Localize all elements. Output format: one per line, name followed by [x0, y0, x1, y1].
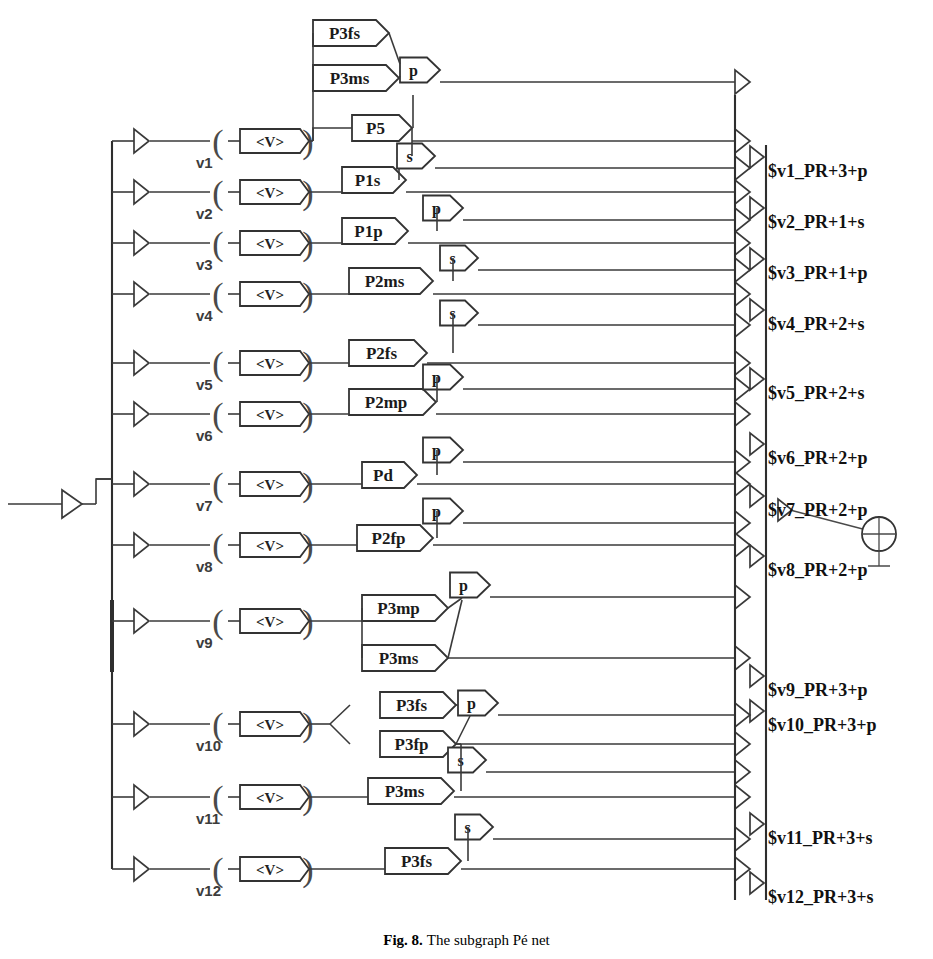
- bus-arrow-icon: [735, 585, 750, 609]
- output-arrow-icon: [750, 700, 764, 722]
- bus-arrow-icon: [735, 511, 750, 535]
- value-box-label: <V>: [256, 134, 284, 150]
- place-box-p3mp-label: P3mp: [377, 599, 420, 618]
- branch-label-v5: v5: [196, 376, 213, 393]
- value-box-label: <V>: [256, 236, 284, 252]
- output-label-o1: $v1_PR+3+p: [768, 161, 868, 181]
- output-label-o3: $v3_PR+1+p: [768, 263, 868, 283]
- branch-arrow-icon: [134, 533, 149, 557]
- transition-box-t1-label: p: [409, 62, 418, 80]
- petri-net-diagram: ()()()()()()()()()()()() <V><V><V><V><V>…: [0, 0, 933, 959]
- transition-box-t4-shape: [440, 246, 478, 271]
- bus-arrow-icon: [735, 70, 750, 94]
- open-paren: (: [212, 174, 223, 212]
- bus-arrow-icon: [735, 231, 750, 255]
- figure-canvas: ()()()()()()()()()()()() <V><V><V><V><V>…: [0, 0, 933, 959]
- connector-wire: [330, 705, 350, 724]
- output-arrow-icon: [750, 813, 764, 835]
- open-paren: (: [212, 276, 223, 314]
- value-box-label: <V>: [256, 477, 284, 493]
- open-paren: (: [212, 527, 223, 565]
- place-box-p3ms_a-label: P3ms: [330, 69, 370, 88]
- value-box-label: <V>: [256, 287, 284, 303]
- output-label-o5: $v5_PR+2+s: [768, 383, 865, 403]
- value-box-label: <V>: [256, 790, 284, 806]
- branch-label-v1: v1: [196, 154, 213, 171]
- place-box-p3ms_c-label: P3ms: [385, 782, 425, 801]
- bus-arrow-icon: [735, 313, 750, 337]
- open-paren: (: [212, 225, 223, 263]
- bus-arrow-icon: [735, 402, 750, 426]
- bus-arrow-icon: [735, 646, 750, 670]
- branch-arrow-icon: [134, 472, 149, 496]
- output-label-o2: $v2_PR+1+s: [768, 212, 865, 232]
- output-label-o6: $v6_PR+2+p: [768, 448, 868, 468]
- transition-box-t8-shape: [423, 499, 463, 524]
- output-arrow-icon: [750, 545, 764, 567]
- bus-arrow-icon: [735, 129, 750, 153]
- open-paren: (: [212, 603, 223, 641]
- transition-box-t9-label: p: [459, 577, 468, 595]
- bus-arrow-icon: [735, 377, 750, 401]
- output-arrow-icon: [750, 368, 764, 390]
- branch-arrow-icon: [134, 712, 149, 736]
- branch-label-v2: v2: [196, 205, 213, 222]
- branch-label-v6: v6: [196, 427, 213, 444]
- branch-label-v10: v10: [196, 737, 221, 754]
- place-box-p3fs_a-label: P3fs: [329, 24, 361, 43]
- output-label-o9: $v9_PR+3+p: [768, 680, 868, 700]
- branch-arrow-icon: [134, 180, 149, 204]
- transition-box-t2-shape: [397, 144, 435, 169]
- place-box-p2mp-label: P2mp: [365, 393, 408, 412]
- output-bus: [406, 70, 766, 900]
- open-paren: (: [212, 396, 223, 434]
- transition-box-t10-shape: [458, 691, 498, 716]
- connector-wire: [399, 76, 400, 78]
- value-box-label: <V>: [256, 717, 284, 733]
- figure-caption: Fig. 8. The subgraph Pé net: [0, 931, 933, 949]
- diagram-static-wires: [8, 141, 112, 869]
- open-paren: (: [212, 123, 223, 161]
- bus-arrow-icon: [735, 703, 750, 727]
- open-paren: (: [212, 345, 223, 383]
- branch-arrow-icon: [134, 282, 149, 306]
- branch-arrow-icon: [134, 231, 149, 255]
- connector-wire: [330, 724, 350, 744]
- bus-arrow-icon: [735, 827, 750, 851]
- connector-wire: [448, 600, 462, 658]
- value-box-label: <V>: [256, 614, 284, 630]
- place-box-pd-label: Pd: [373, 466, 393, 485]
- bus-arrow-icon: [735, 785, 750, 809]
- bus-arrow-icon: [735, 258, 750, 282]
- branch-label-v3: v3: [196, 256, 213, 273]
- connector-wire: [389, 33, 400, 64]
- branch-arrow-icon: [134, 129, 149, 153]
- bus-arrow-icon: [735, 180, 750, 204]
- place-box-p1s-label: P1s: [355, 171, 381, 190]
- branch-label-v4: v4: [196, 307, 213, 324]
- bus-arrow-icon: [735, 533, 750, 557]
- output-arrow-icon: [750, 665, 764, 687]
- branch-label-v9: v9: [196, 634, 213, 651]
- transition-box-t11-shape: [448, 748, 486, 773]
- branch-arrow-icon: [134, 857, 149, 881]
- value-box-label: <V>: [256, 538, 284, 554]
- branch-label-v8: v8: [196, 558, 213, 575]
- bus-arrow-icon: [735, 450, 750, 474]
- output-arrow-icon: [750, 197, 764, 219]
- bus-arrow-icon: [735, 208, 750, 232]
- caption-label: Fig. 8.: [383, 932, 423, 948]
- output-label-o8: $v8_PR+2+p: [768, 560, 868, 580]
- output-arrow-icon: [750, 433, 764, 455]
- branch-arrow-icon: [134, 785, 149, 809]
- output-label-o7: $v7_PR+2+p: [768, 500, 868, 520]
- place-box-p3ms_b-label: P3ms: [379, 649, 419, 668]
- branch-arrow-icon: [134, 609, 149, 633]
- branch-label-v12: v12: [196, 882, 221, 899]
- output-arrow-icon: [750, 872, 764, 894]
- branch-arrow-icon: [134, 351, 149, 375]
- bus-arrow-icon: [735, 282, 750, 306]
- output-arrow-icon: [750, 146, 764, 168]
- branch-label-v7: v7: [196, 497, 213, 514]
- bus-arrow-icon: [735, 351, 750, 375]
